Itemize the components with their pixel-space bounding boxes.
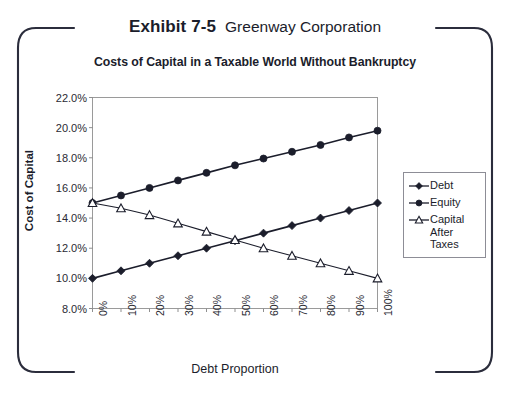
legend-item: Debt (408, 179, 480, 192)
exhibit-page: Exhibit 7-5Greenway Corporation Costs of… (0, 0, 510, 403)
x-axis-title: Debt Proportion (92, 362, 378, 376)
exhibit-label: Exhibit 7-5 (129, 17, 216, 36)
x-axis-tick-label: 40% (211, 294, 223, 315)
exhibit-company: Greenway Corporation (225, 18, 381, 35)
x-axis-tick-label: 20% (154, 294, 166, 315)
x-axis-tick-label: 10% (126, 294, 138, 315)
filled-diamond-marker (408, 179, 430, 192)
x-axis-tick-label: 0% (97, 300, 109, 315)
chart-legend: DebtEquityCapital After Taxes (403, 172, 486, 258)
legend-item: Capital After Taxes (408, 213, 480, 251)
y-axis-title: Cost of Capital (23, 150, 35, 231)
filled-circle-marker (408, 196, 430, 209)
legend-item-label: Capital After Taxes (430, 213, 480, 251)
x-axis-tick-label: 60% (268, 294, 280, 315)
legend-item: Equity (408, 196, 480, 209)
x-axis-tick-label: 100% (382, 289, 394, 316)
legend-item-label: Debt (430, 179, 453, 192)
x-axis-tick-label: 30% (183, 294, 195, 315)
x-axis-tick-label: 80% (325, 294, 337, 315)
open-triangle-marker (408, 213, 430, 226)
x-axis-tick-label: 70% (297, 294, 309, 315)
x-axis-tick-label: 90% (354, 294, 366, 315)
chart-title: Costs of Capital in a Taxable World With… (0, 55, 510, 69)
exhibit-header: Exhibit 7-5Greenway Corporation (0, 17, 510, 37)
legend-item-label: Equity (430, 196, 461, 209)
x-axis-tick-label: 50% (240, 294, 252, 315)
